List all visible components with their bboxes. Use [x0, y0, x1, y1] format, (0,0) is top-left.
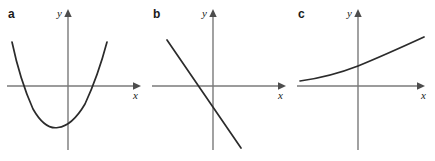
panel-c-curve-exponential [300, 37, 424, 81]
panel-a-y-axis [64, 9, 71, 150]
panel-a-plot [0, 0, 145, 161]
panel-a-y-label: y [57, 8, 62, 19]
panel-a: a y x [0, 0, 145, 161]
panel-b-x-axis [152, 82, 286, 90]
panel-b-y-label: y [202, 8, 207, 19]
panel-c-y-axis [354, 9, 361, 150]
panel-a-x-label: x [133, 90, 138, 101]
panel-c-x-axis [297, 82, 425, 90]
panel-a-x-axis [7, 82, 141, 90]
panel-c: c y x [290, 0, 435, 161]
panel-b-y-axis [209, 9, 216, 150]
panel-b-plot [145, 0, 290, 161]
panel-b: b y x [145, 0, 290, 161]
panel-c-y-label: y [347, 8, 352, 19]
panel-b-x-label: x [278, 90, 283, 101]
panel-a-curve-parabola [12, 42, 107, 128]
figure-three-graphs: a y x b [0, 0, 435, 161]
panel-c-plot [290, 0, 435, 161]
panel-b-curve-line [167, 40, 241, 148]
panel-c-x-label: x [421, 90, 426, 101]
